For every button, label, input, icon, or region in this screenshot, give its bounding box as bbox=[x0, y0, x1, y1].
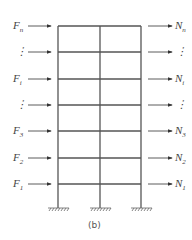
force-label-right: Ni bbox=[175, 73, 184, 89]
frame-structure bbox=[58, 26, 141, 208]
ellipsis-left: ⋮ bbox=[16, 99, 27, 110]
force-label-left: F3 bbox=[13, 125, 23, 141]
right-force-arrows bbox=[148, 26, 172, 184]
force-label-left: F1 bbox=[13, 178, 23, 194]
force-label-right: N1 bbox=[175, 178, 186, 194]
ellipsis-left: ⋮ bbox=[16, 46, 27, 57]
force-label-right: N3 bbox=[175, 125, 186, 141]
force-label-left: F2 bbox=[13, 152, 23, 168]
force-label-right: N2 bbox=[175, 152, 186, 168]
frame-diagram bbox=[0, 0, 192, 240]
figure-caption: (b) bbox=[88, 220, 101, 230]
ellipsis-right: ⋮ bbox=[176, 46, 187, 57]
force-label-left: Fn bbox=[13, 20, 23, 36]
ellipsis-right: ⋮ bbox=[176, 99, 187, 110]
force-label-left: Fi bbox=[13, 73, 22, 89]
fixed-supports bbox=[48, 208, 152, 211]
force-label-right: Nn bbox=[175, 20, 186, 36]
left-force-arrows bbox=[28, 26, 51, 184]
